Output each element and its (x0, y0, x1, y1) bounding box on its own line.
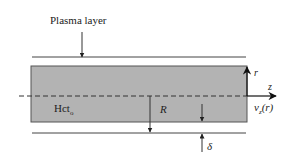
z-axis-label: z (267, 81, 272, 92)
vessel-flow-diagram: Plasma layer Hcto R r z vz(r) δ (0, 0, 290, 167)
velocity-label: vz(r) (254, 101, 274, 116)
delta-label: δ (207, 140, 213, 152)
radius-label: R (159, 103, 167, 115)
plasma-layer-label: Plasma layer (50, 14, 107, 26)
r-axis-label: r (254, 67, 258, 78)
